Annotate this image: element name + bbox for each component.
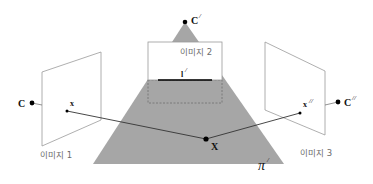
point-x-double-prime-mark: // [308,97,314,105]
camera-c-prime-label: C [191,15,198,26]
world-point-X-label: X [211,141,219,152]
world-point-X-dot [203,136,208,141]
image-3-plane [265,42,325,135]
camera-c-double-prime-label: C [344,97,351,108]
camera-c-double-prime-dot [336,100,341,105]
trifocal-diagram: 이미지 2 l / C / 이미지 1 이미지 3 C x X x // C /… [0,0,373,184]
camera-c-double-prime-mark: // [351,94,357,102]
camera-c-prime-mark: / [198,12,202,20]
plane-pi-label: π [258,158,266,173]
point-x-label: x [70,99,74,108]
point-x-double-prime-label: x [303,100,307,109]
image-3-label: 이미지 3 [300,148,332,158]
point-x-dot [66,110,69,113]
image-2-label: 이미지 2 [180,47,212,57]
camera-c-prime-dot [183,20,188,25]
point-x-double-prime-dot [299,112,302,115]
camera-c-label: C [18,98,25,109]
image-1-label: 이미지 1 [40,150,72,160]
camera-c-dot [30,101,35,106]
